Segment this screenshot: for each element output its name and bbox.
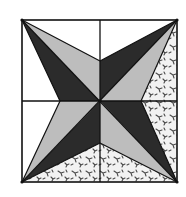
quilt-block-diagram — [0, 0, 186, 197]
